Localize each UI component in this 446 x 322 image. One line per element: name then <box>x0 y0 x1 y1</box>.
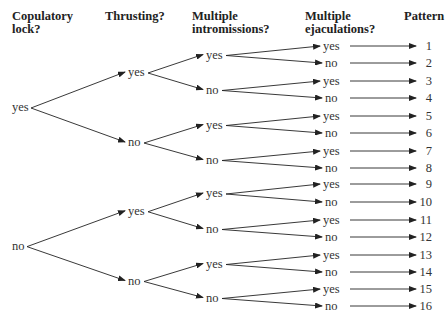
node-ejaculations-yes: yes <box>323 178 340 191</box>
arrow-icon <box>226 184 320 194</box>
arrow-icon <box>222 289 320 299</box>
node-ejaculations-yes: yes <box>323 75 340 88</box>
pattern-number: 9 <box>412 178 432 191</box>
arrow-icon <box>148 55 203 74</box>
arrow-icon <box>148 73 203 90</box>
arrow-icon <box>31 72 125 108</box>
pattern-number: 13 <box>412 249 432 262</box>
arrow-icon <box>222 81 320 91</box>
tree-edges <box>0 0 446 322</box>
arrow-icon <box>222 161 322 169</box>
node-thrusting-yes: yes <box>128 205 145 218</box>
node-ejaculations-no: no <box>325 196 338 209</box>
arrow-icon <box>226 126 322 134</box>
arrow-icon <box>226 46 320 56</box>
arrow-icon <box>144 143 203 160</box>
pattern-number: 10 <box>412 196 432 209</box>
arrow-icon <box>226 56 322 64</box>
arrow-icon <box>27 211 125 247</box>
node-intromissions-no: no <box>206 154 219 167</box>
node-ejaculations-no: no <box>325 231 338 244</box>
pattern-number: 14 <box>412 266 432 279</box>
node-ejaculations-no: no <box>325 127 338 140</box>
arrow-icon <box>226 255 320 265</box>
pattern-number: 5 <box>412 110 432 123</box>
node-thrusting-no: no <box>128 275 141 288</box>
node-intromissions-yes: yes <box>206 258 223 271</box>
node-ejaculations-no: no <box>325 266 338 279</box>
node-intromissions-no: no <box>206 84 219 97</box>
node-intromissions-yes: yes <box>206 119 223 132</box>
node-intromissions-no: no <box>206 292 219 305</box>
arrow-icon <box>144 264 203 282</box>
node-copulatory-lock-yes: yes <box>12 101 29 114</box>
node-intromissions-yes: yes <box>206 187 223 200</box>
node-ejaculations-no: no <box>325 162 338 175</box>
pattern-number: 2 <box>412 57 432 70</box>
node-intromissions-no: no <box>206 223 219 236</box>
arrow-icon <box>144 282 203 298</box>
arrow-icon <box>31 108 125 142</box>
node-ejaculations-yes: yes <box>323 214 340 227</box>
pattern-number: 11 <box>412 214 432 227</box>
node-ejaculations-yes: yes <box>323 110 340 123</box>
arrow-icon <box>222 151 320 161</box>
pattern-number: 16 <box>412 300 432 313</box>
pattern-number: 7 <box>412 145 432 158</box>
node-ejaculations-yes: yes <box>323 40 340 53</box>
arrow-icon <box>222 230 322 238</box>
pattern-number: 4 <box>412 92 432 105</box>
pattern-number: 6 <box>412 127 432 140</box>
node-intromissions-yes: yes <box>206 49 223 62</box>
arrow-icon <box>222 220 320 230</box>
node-thrusting-yes: yes <box>128 66 145 79</box>
node-ejaculations-yes: yes <box>323 249 340 262</box>
node-ejaculations-no: no <box>325 92 338 105</box>
arrow-icon <box>222 91 322 99</box>
arrow-icon <box>222 299 322 307</box>
pattern-number: 15 <box>412 283 432 296</box>
pattern-number: 12 <box>412 231 432 244</box>
node-ejaculations-yes: yes <box>323 145 340 158</box>
node-ejaculations-no: no <box>325 57 338 70</box>
arrow-icon <box>148 212 203 229</box>
arrow-icon <box>144 125 203 144</box>
pattern-number: 1 <box>412 40 432 53</box>
node-thrusting-no: no <box>128 136 141 149</box>
arrow-icon <box>226 116 320 126</box>
arrow-icon <box>226 194 322 202</box>
arrow-icon <box>148 193 203 212</box>
node-ejaculations-no: no <box>325 300 338 313</box>
node-copulatory-lock-no: no <box>12 240 25 253</box>
arrow-icon <box>226 265 322 273</box>
pattern-number: 3 <box>412 75 432 88</box>
node-ejaculations-yes: yes <box>323 283 340 296</box>
pattern-number: 8 <box>412 162 432 175</box>
arrow-icon <box>27 247 125 281</box>
